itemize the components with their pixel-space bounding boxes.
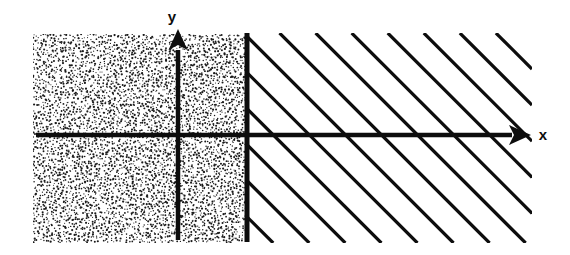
coordinate-plane-region-diagram: x y (0, 0, 570, 255)
y-axis-label: y (168, 8, 177, 25)
figure-canvas: x y (0, 0, 570, 255)
x-axis-label: x (539, 126, 548, 143)
